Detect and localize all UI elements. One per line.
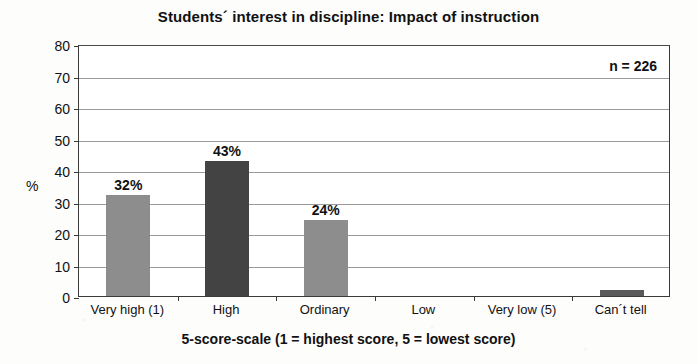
y-axis-tick: [74, 46, 79, 47]
x-axis-tick: [178, 296, 179, 301]
y-axis-tick-label: 70: [54, 70, 70, 86]
bar-value-label: 32%: [114, 177, 142, 193]
gridline: [79, 267, 669, 268]
y-axis-tick: [74, 204, 79, 205]
y-axis-tick-label: 40: [54, 164, 70, 180]
gridline: [79, 109, 669, 110]
gridline: [79, 235, 669, 236]
x-axis-tick: [572, 296, 573, 301]
y-axis-tick-label: 80: [54, 38, 70, 54]
x-axis-category-label: Very low (5): [488, 302, 557, 317]
y-axis-tick-label: 50: [54, 133, 70, 149]
y-axis-tick: [74, 78, 79, 79]
y-axis-tick-label: 20: [54, 227, 70, 243]
x-axis-category-label: Ordinary: [300, 302, 350, 317]
y-axis-tick-label: 0: [62, 290, 70, 306]
x-axis-tick: [375, 296, 376, 301]
chart-page: Students´ interest in discipline: Impact…: [0, 0, 697, 364]
sample-size-annotation: n = 226: [609, 58, 657, 74]
y-axis-tick-label: 60: [54, 101, 70, 117]
y-axis-tick-label: 10: [54, 259, 70, 275]
page-title: Students´ interest in discipline: Impact…: [0, 8, 697, 25]
y-axis-tick: [74, 172, 79, 173]
y-axis-tick: [74, 235, 79, 236]
gridline: [79, 172, 669, 173]
x-axis-category-label: Can´t tell: [595, 302, 647, 317]
y-axis-tick: [74, 298, 79, 299]
gridline: [79, 204, 669, 205]
y-axis-tick-label: 30: [54, 196, 70, 212]
bar[interactable]: [304, 220, 348, 296]
gridline: [79, 141, 669, 142]
plot-area: n = 226 01020304050607080 32%43%24%: [78, 45, 670, 297]
x-axis-tick: [276, 296, 277, 301]
x-axis-category-label: Low: [411, 302, 435, 317]
bar-value-label: 43%: [213, 143, 241, 159]
bar-value-label: 24%: [312, 202, 340, 218]
bar[interactable]: [600, 290, 644, 296]
y-axis-tick: [74, 141, 79, 142]
bar[interactable]: [205, 161, 249, 296]
bar[interactable]: [106, 195, 150, 296]
y-axis-tick: [74, 109, 79, 110]
x-axis-category-label: Very high (1): [90, 302, 164, 317]
x-axis-tick: [474, 296, 475, 301]
y-axis-tick: [74, 267, 79, 268]
gridline: [79, 78, 669, 79]
x-axis-title: 5-score-scale (1 = highest score, 5 = lo…: [0, 331, 697, 347]
y-axis-title: %: [26, 178, 38, 194]
x-axis-category-label: High: [213, 302, 240, 317]
